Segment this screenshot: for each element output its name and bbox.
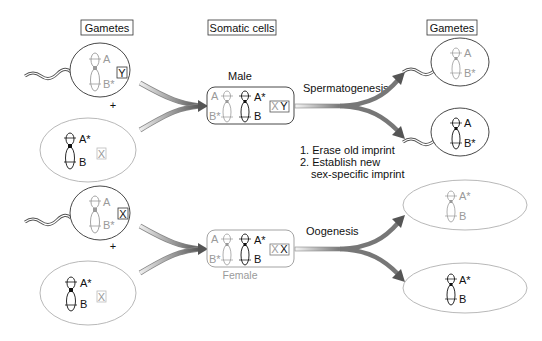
sperm-output-1: A B* — [403, 38, 489, 86]
header-gametes-left: Gametes — [81, 20, 133, 35]
svg-text:A: A — [464, 47, 472, 59]
imprint-steps: 1. Erase old imprint 2. Establish new se… — [300, 144, 405, 180]
svg-text:X: X — [98, 291, 106, 303]
sperm-output-2: A B* — [403, 108, 489, 156]
svg-text:X: X — [119, 208, 127, 220]
svg-text:Y: Y — [118, 67, 126, 79]
svg-text:Gametes: Gametes — [430, 22, 475, 34]
fertilization-arrow-male — [140, 83, 208, 130]
svg-text:A: A — [464, 117, 472, 129]
male-label: Male — [228, 70, 252, 82]
sperm-y-gamete: A B* Y — [25, 43, 130, 97]
svg-text:Gametes: Gametes — [85, 22, 130, 34]
oogenesis-label: Oogenesis — [306, 225, 359, 237]
svg-text:X: X — [98, 148, 106, 160]
svg-text:B*: B* — [464, 137, 476, 149]
svg-text:Y: Y — [280, 100, 288, 112]
svg-text:A*: A* — [254, 234, 266, 246]
svg-text:A*: A* — [459, 274, 471, 286]
svg-text:B*: B* — [464, 67, 476, 79]
spermatogenesis-label: Spermatogenesis — [303, 82, 389, 94]
fertilization-arrow-female — [140, 226, 208, 273]
sperm-x-gamete: A B* X — [25, 186, 130, 240]
svg-text:B*: B* — [209, 253, 221, 265]
svg-text:B*: B* — [103, 219, 115, 231]
plus-sign: + — [110, 240, 116, 252]
svg-text:A: A — [211, 233, 219, 245]
svg-text:Somatic cells: Somatic cells — [210, 22, 275, 34]
header-gametes-right: Gametes — [427, 20, 477, 35]
svg-text:X: X — [271, 100, 279, 112]
svg-text:1. Erase old imprint: 1. Erase old imprint — [300, 144, 395, 156]
svg-text:X: X — [271, 243, 279, 255]
svg-text:A*: A* — [79, 133, 91, 145]
egg-output-1: A* B — [403, 180, 527, 230]
svg-text:A*: A* — [254, 91, 266, 103]
svg-text:B*: B* — [209, 110, 221, 122]
svg-text:B: B — [459, 210, 466, 222]
egg-output-2: A* B — [403, 263, 527, 313]
svg-text:2. Establish new: 2. Establish new — [300, 156, 380, 168]
egg-x-gamete: A* B X — [40, 118, 136, 182]
svg-text:B: B — [254, 110, 261, 122]
female-label: Female — [222, 269, 257, 281]
svg-text:B: B — [80, 298, 87, 310]
imprinting-diagram: Gametes Somatic cells Gametes A B* Y + — [0, 0, 542, 341]
svg-text:A: A — [211, 90, 219, 102]
female-somatic-cell: A B* A* B X X — [207, 230, 294, 267]
header-somatic-cells: Somatic cells — [208, 20, 276, 35]
svg-text:B: B — [79, 156, 86, 168]
svg-text:A*: A* — [459, 190, 471, 202]
svg-text:A: A — [103, 196, 111, 208]
svg-text:B*: B* — [103, 78, 115, 90]
svg-text:X: X — [280, 243, 288, 255]
svg-text:sex-specific imprint: sex-specific imprint — [311, 168, 405, 180]
svg-text:B: B — [459, 293, 466, 305]
svg-text:A*: A* — [80, 277, 92, 289]
plus-sign: + — [110, 99, 116, 111]
male-somatic-cell: A B* A* B X Y — [207, 87, 294, 124]
svg-text:A: A — [103, 53, 111, 65]
svg-text:B: B — [254, 253, 261, 265]
egg-x-gamete-2: A* B X — [40, 261, 136, 325]
